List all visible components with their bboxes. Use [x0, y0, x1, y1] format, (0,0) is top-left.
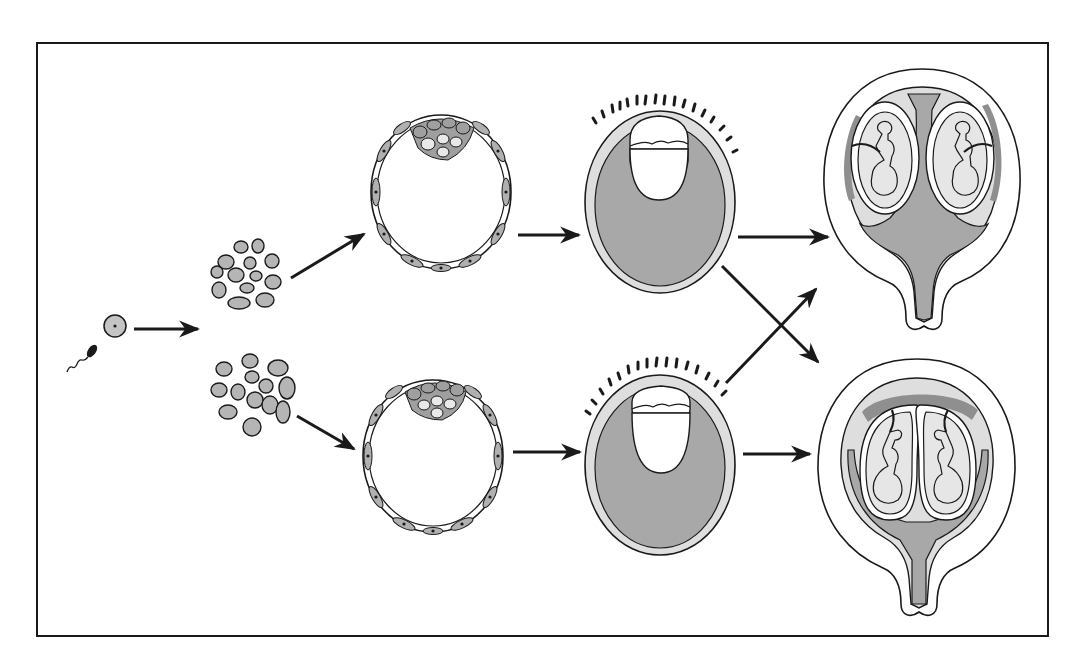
blastocyst-top	[371, 115, 511, 272]
implanted-embryo-bottom	[585, 358, 735, 555]
morula-top	[211, 239, 281, 309]
arrow-morula-bottom-to-blastocyst	[297, 416, 354, 449]
blastocyst-bottom	[363, 380, 503, 535]
gametes-group	[67, 315, 126, 372]
twin-development-diagram	[0, 0, 1085, 658]
uterus-twins-separate-placentas	[824, 69, 1020, 329]
egg-icon	[104, 315, 126, 337]
uterus-twins-shared-placenta	[818, 359, 1015, 615]
sperm-icon	[67, 343, 99, 372]
arrow-bottom-to-separate-placentas	[726, 289, 816, 383]
arrow-top-to-shared-placenta	[722, 266, 818, 362]
arrow-morula-top-to-blastocyst	[291, 234, 364, 278]
implanted-embryo-top	[585, 95, 737, 293]
morula-bottom	[211, 354, 295, 436]
